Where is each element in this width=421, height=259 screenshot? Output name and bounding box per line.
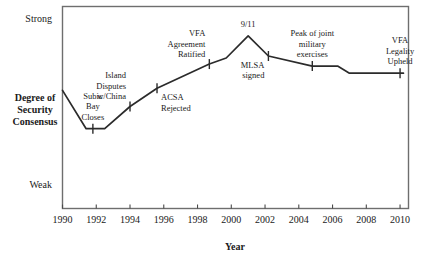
x-axis-title: Year [225,241,246,252]
x-axis-tick-label: 2000 [221,214,241,225]
x-axis-tick-label: 1992 [86,214,106,225]
x-axis-tick-label: 2002 [255,214,275,225]
annotation-label: Disputes [96,81,126,91]
x-axis-tick-label: 1990 [53,214,73,225]
annotation-label: VFA [189,28,206,38]
y-axis-category-label: Weak [29,179,52,190]
annotation-label: w/China [97,91,126,101]
annotation-label: Island [105,70,127,80]
annotation-label: Rejected [161,103,191,113]
y-axis-title-line1: Degree of [15,92,56,103]
x-axis-tick-label: 2008 [356,214,376,225]
x-axis-tick-label: 2004 [289,214,309,225]
annotation-label: Peak of joint [291,28,335,38]
annotation-label: MLSA [241,60,265,70]
x-axis-tick-label: 1994 [120,214,140,225]
annotation-label: Upheld [388,56,414,66]
x-axis-tick-label: 2010 [390,214,410,225]
x-axis-tick-label: 1996 [154,214,174,225]
annotation-label: military [299,39,327,49]
annotation-label: Closes [82,112,105,122]
annotation-label: Bay [86,101,100,111]
annotation-label: Ratified [178,49,206,59]
annotation-label: exercises [297,49,328,59]
annotation-label: Agreement [168,39,206,49]
annotation-label: ACSA [161,92,185,102]
annotation-label: signed [242,70,265,80]
security-consensus-line-chart: 1990199219941996199820002002200420062008… [0,0,421,259]
annotation-label: VFA [392,35,409,45]
y-axis-category-label: Strong [25,13,52,24]
annotation-label: Legality [386,46,415,56]
chart-figure: 1990199219941996199820002002200420062008… [0,0,421,259]
annotation-label: 9/11 [241,19,256,29]
x-axis-tick-label: 2006 [323,214,343,225]
x-axis-tick-label: 1998 [188,214,208,225]
y-axis-title-line3: Consensus [12,116,57,127]
y-axis-title-line2: Security [17,104,53,115]
x-axis-tick-labels: 1990199219941996199820002002200420062008… [53,214,411,225]
